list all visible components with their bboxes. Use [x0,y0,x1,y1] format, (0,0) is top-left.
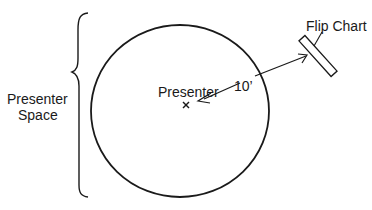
distance-arrow-line-outer [255,56,306,76]
flip-chart-label: Flip Chart [306,18,367,34]
presenter-space-diagram: Presenter Space Presenter 10’ Flip Chart [0,0,372,210]
presenter-space-label-line2: Space [18,107,58,123]
flip-chart-leader [314,32,322,46]
presenter-marker-icon [183,102,189,108]
distance-label: 10’ [234,78,253,94]
presenter-space-label-line1: Presenter [7,91,68,107]
presenter-space-brace [72,13,88,197]
presenter-label: Presenter [158,84,219,100]
presenter-area-circle [91,25,269,197]
